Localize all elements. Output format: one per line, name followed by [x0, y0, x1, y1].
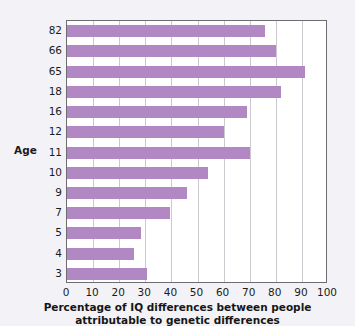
bar: [67, 106, 247, 118]
y-axis-tick-label: 16: [49, 105, 62, 117]
y-axis-tick-label: 7: [55, 206, 62, 218]
x-axis-tick-label: 20: [112, 286, 125, 298]
y-axis-tick-label: 18: [49, 85, 62, 97]
y-axis-tick-label: 82: [49, 24, 62, 36]
y-axis-tick-label: 4: [55, 247, 62, 259]
x-axis-tick-label: 100: [317, 286, 337, 298]
y-axis-tick-label: 11: [49, 146, 62, 158]
bar: [67, 86, 281, 98]
y-axis-tick-label: 5: [55, 226, 62, 238]
x-axis-caption: Percentage of IQ differences between peo…: [0, 301, 355, 326]
y-axis-tick-label: 65: [49, 65, 62, 77]
bar: [67, 268, 147, 280]
x-axis-tick-label: 70: [242, 286, 255, 298]
y-axis-tick-label: 66: [49, 44, 62, 56]
bar-series: [67, 21, 326, 282]
x-axis-tick-label: 10: [85, 286, 98, 298]
bar: [67, 66, 305, 78]
x-axis-tick-label: 90: [294, 286, 307, 298]
x-axis-caption-line-2: attributable to genetic differences: [0, 314, 355, 326]
y-axis-tick-label: 10: [49, 166, 62, 178]
bar: [67, 187, 187, 199]
bar: [67, 126, 224, 138]
y-axis-tick-labels: 826665181612111097543: [36, 20, 62, 283]
x-axis-caption-line-1: Percentage of IQ differences between peo…: [0, 301, 355, 314]
x-axis-tick-label: 50: [190, 286, 203, 298]
bar: [67, 147, 250, 159]
bar: [67, 167, 208, 179]
x-axis-tick-label: 0: [63, 286, 70, 298]
y-axis-title: Age: [14, 144, 37, 156]
bar: [67, 25, 265, 37]
bar: [67, 248, 134, 260]
x-axis-tick-label: 60: [216, 286, 229, 298]
x-axis-tick-label: 80: [268, 286, 281, 298]
y-axis-tick-label: 12: [49, 125, 62, 137]
x-axis-tick-label: 30: [138, 286, 151, 298]
x-axis-tick-label: 40: [164, 286, 177, 298]
y-axis-tick-label: 3: [55, 267, 62, 279]
bar: [67, 45, 276, 57]
y-axis-tick-label: 9: [55, 186, 62, 198]
plot-area: [66, 20, 327, 283]
x-axis-tick-labels: 0102030405060708090100: [66, 286, 327, 300]
bar: [67, 207, 170, 219]
bar: [67, 227, 141, 239]
